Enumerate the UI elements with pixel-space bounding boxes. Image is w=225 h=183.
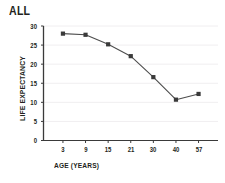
x-axis-tick-label: 3 bbox=[57, 146, 69, 153]
data-point-marker bbox=[129, 54, 133, 58]
y-axis-tick-label: 15 bbox=[26, 80, 36, 87]
x-axis-tick-label: 57 bbox=[193, 146, 205, 153]
series-line-all bbox=[63, 34, 199, 100]
y-axis-tick-label: 10 bbox=[26, 99, 36, 106]
data-point-marker bbox=[61, 32, 65, 36]
y-axis-tick-label: 5 bbox=[26, 118, 36, 125]
chart-figure: ALL LIFE EXPECTANCY AGE (YEARS) 05101520… bbox=[0, 0, 225, 183]
x-axis-tick-label: 30 bbox=[147, 146, 159, 153]
x-axis-tick-label: 9 bbox=[80, 146, 92, 153]
series-markers-all bbox=[61, 32, 201, 102]
data-point-marker bbox=[174, 98, 178, 102]
y-axis-tick-label: 0 bbox=[26, 137, 36, 144]
gridlines bbox=[44, 26, 219, 121]
data-point-marker bbox=[196, 92, 200, 96]
y-axis-tick-label: 20 bbox=[26, 61, 36, 68]
data-point-marker bbox=[106, 42, 110, 46]
data-point-marker bbox=[151, 75, 155, 79]
data-point-marker bbox=[83, 33, 87, 37]
x-axis-tick-label: 15 bbox=[102, 146, 114, 153]
x-axis-tick-label: 40 bbox=[170, 146, 182, 153]
data-series bbox=[61, 32, 201, 102]
x-axis-tick-label: 21 bbox=[125, 146, 137, 153]
y-axis-tick-label: 30 bbox=[26, 23, 36, 30]
y-axis-tick-label: 25 bbox=[26, 42, 36, 49]
